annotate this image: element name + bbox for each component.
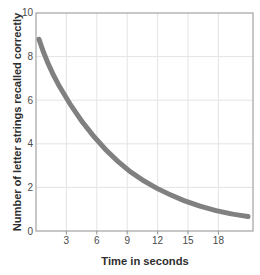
- x-tick-label-15: 15: [176, 236, 200, 246]
- forgetting-curve-chart: 0 2 4 6 8 10 3 6 9 12 15 18 Number of le…: [0, 0, 260, 275]
- x-tick-label-12: 12: [146, 236, 170, 246]
- plot-background: [36, 13, 253, 231]
- x-tick-label-6: 6: [85, 236, 109, 246]
- x-tick-label-18: 18: [206, 236, 230, 246]
- x-tick-label-9: 9: [115, 236, 139, 246]
- x-axis-title: Time in seconds: [36, 255, 254, 267]
- plot-area: [0, 0, 260, 275]
- y-axis-title: Number of letter strings recalled correc…: [9, 7, 25, 237]
- x-tick-label-3: 3: [54, 236, 78, 246]
